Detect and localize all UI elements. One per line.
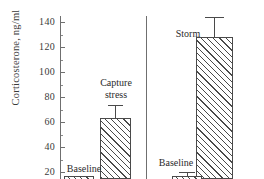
- error-bar-cap-capture-stress: [108, 105, 123, 106]
- y-axis-title: Corticosterone, ng/ml: [10, 0, 21, 133]
- y-tick-label-140: 140: [29, 16, 55, 27]
- y-minor-tick-110: [61, 60, 63, 61]
- error-bar-stem-capture-stress: [115, 105, 116, 118]
- y-tick-140: [61, 22, 65, 23]
- bar-chart-figure: Corticosterone, ng/ml 140 120 100 80 60 …: [0, 0, 264, 179]
- y-tick-label-80: 80: [29, 91, 55, 102]
- y-tick-label-100: 100: [29, 66, 55, 77]
- y-minor-tick-130: [61, 35, 63, 36]
- y-minor-tick-30: [61, 160, 63, 161]
- y-tick-label-60: 60: [29, 116, 55, 127]
- y-minor-tick-90: [61, 85, 63, 86]
- label-capture-stress-line1: Capture: [90, 77, 142, 89]
- y-tick-label-120: 120: [29, 41, 55, 52]
- error-bar-cap-storm: [205, 17, 224, 18]
- bar-baseline-capture-panel: [64, 176, 94, 179]
- y-minor-tick-70: [61, 110, 63, 111]
- bar-storm: [196, 37, 233, 179]
- label-baseline-capture-panel: Baseline: [63, 163, 105, 175]
- y-tick-80: [61, 97, 65, 98]
- right-panel-y-axis-line: [146, 16, 147, 179]
- y-minor-tick-50: [61, 135, 63, 136]
- error-bar-stem-storm: [214, 17, 215, 37]
- y-tick-40: [61, 147, 65, 148]
- y-tick-label-20: 20: [29, 166, 55, 177]
- y-tick-100: [61, 72, 65, 73]
- y-tick-120: [61, 47, 65, 48]
- label-baseline-storm-panel: Baseline: [152, 157, 200, 169]
- y-tick-label-40: 40: [29, 141, 55, 152]
- y-tick-60: [61, 122, 65, 123]
- label-storm: Storm: [166, 28, 210, 40]
- label-capture-stress-line2: stress: [90, 89, 142, 101]
- error-bar-cap-baseline-storm-panel: [179, 172, 195, 173]
